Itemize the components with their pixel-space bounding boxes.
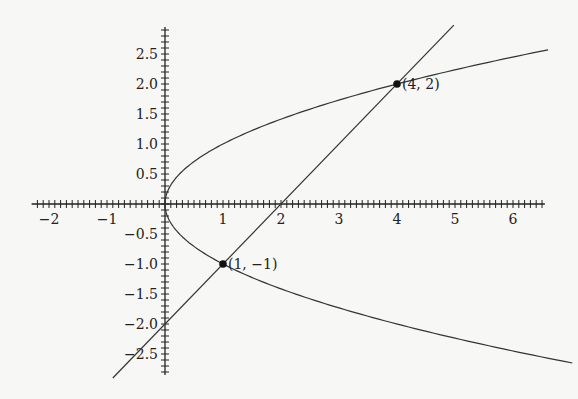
axis-minor-ticks: [37, 30, 542, 372]
x-tick-label: −2: [39, 211, 60, 227]
y-tick-label: 1.0: [136, 136, 158, 152]
parabola-curve: [165, 50, 572, 363]
point-label: (1, −1): [228, 256, 277, 272]
chart-canvas: −2−1123456 2.52.01.51.00.5−0.5−1.0−1.5−2…: [0, 0, 578, 399]
x-tick-label: 6: [509, 211, 518, 227]
y-tick-label: −1.5: [124, 286, 158, 302]
x-tick-label: 3: [335, 211, 344, 227]
y-tick-label: 2.5: [136, 46, 158, 62]
intersection-point: [393, 80, 401, 88]
y-tick-label: 1.5: [136, 106, 158, 122]
x-tick-label: 2: [277, 211, 286, 227]
x-tick-label: 4: [393, 211, 402, 227]
intersection-point: [219, 260, 227, 268]
x-tick-label: 1: [219, 211, 228, 227]
y-tick-label: −2.0: [124, 316, 158, 332]
intersection-points: (4, 2)(1, −1): [219, 76, 439, 272]
point-label: (4, 2): [402, 76, 440, 92]
y-tick-label: −1.0: [124, 256, 158, 272]
x-tick-labels: −2−1123456: [39, 211, 518, 227]
y-tick-label: −0.5: [124, 226, 158, 242]
x-tick-label: 5: [451, 211, 460, 227]
y-tick-label: 2.0: [136, 76, 158, 92]
y-tick-label: 0.5: [136, 166, 158, 182]
x-tick-label: −1: [97, 211, 118, 227]
